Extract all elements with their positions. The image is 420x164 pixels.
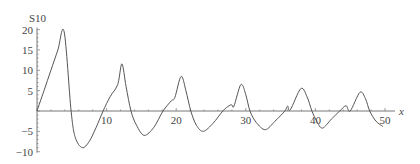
x-tick-label: 30 [240, 114, 252, 126]
y-tick-label: 5 [28, 85, 34, 97]
line-chart: −10−55101520 1020304050 S10 x [0, 0, 420, 164]
y-axis-ticks: −10−55101520 [16, 24, 40, 158]
x-axis-label: x [398, 105, 404, 117]
y-tick-label: −10 [16, 146, 34, 158]
y-tick-label: 10 [22, 64, 34, 76]
y-tick-label: −5 [21, 125, 33, 137]
x-tick-label: 50 [380, 114, 392, 126]
x-tick-label: 20 [171, 114, 183, 126]
y-tick-label: 20 [22, 24, 34, 36]
y-tick-label: 15 [22, 44, 34, 56]
series-line-s10 [37, 29, 383, 148]
x-tick-label: 10 [101, 114, 113, 126]
chart-canvas: −10−55101520 1020304050 S10 x [0, 0, 420, 164]
y-axis-label: S10 [29, 12, 47, 24]
